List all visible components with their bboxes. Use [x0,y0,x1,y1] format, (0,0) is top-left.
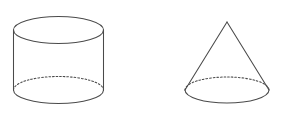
geometric-solids-diagram [0,0,284,118]
cylinder-bottom-back-arc [14,77,104,91]
cone-base-back-arc [185,77,269,90]
cylinder-bottom-front-arc [14,90,104,104]
cone-right-slant-line [227,22,269,90]
cone-base-front-arc [185,90,269,103]
cylinder-shape [14,17,104,104]
cone-shape [185,22,269,103]
cone-left-slant-line [185,22,227,90]
cylinder-top-ellipse [14,17,104,44]
solids-canvas [0,0,284,118]
